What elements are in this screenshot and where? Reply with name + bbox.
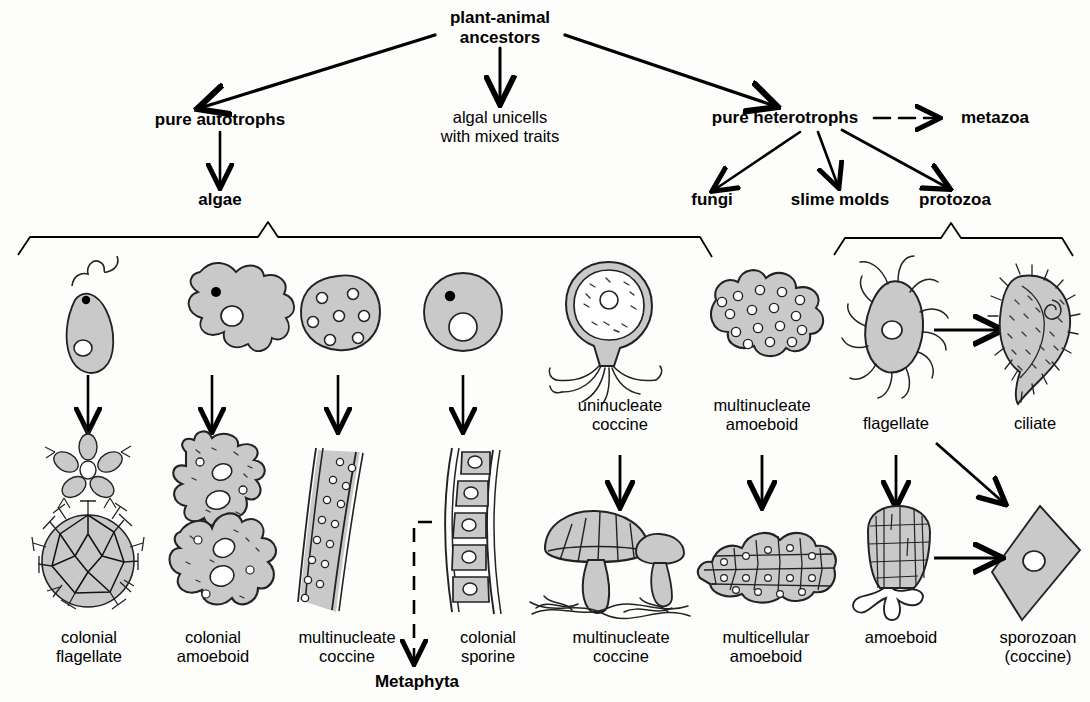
- caption-fungi-multinucleate-coccine: multinucleate coccine: [549, 628, 693, 666]
- diagram-canvas: plant-animal ancestors pure autotrophs a…: [0, 0, 1090, 702]
- organism-flagellate-protozoan: [842, 256, 948, 398]
- caption-multinucleate-amoeboid: multinucleate amoeboid: [687, 396, 837, 434]
- caption-colonial-amoeboid: colonial amoeboid: [152, 628, 274, 666]
- caption-line2: amoeboid: [687, 415, 837, 434]
- caption-ciliate: ciliate: [985, 414, 1085, 433]
- organism-mushroom: [530, 511, 690, 619]
- node-protozoa: protozoa: [900, 190, 1010, 210]
- organism-multicellular-amoeboid: [698, 533, 836, 603]
- caption-colonial-flagellate: colonial flagellate: [28, 628, 150, 666]
- node-root-line1: plant-animal: [415, 8, 585, 28]
- node-algae: algae: [180, 190, 260, 210]
- caption-sporozoan: sporozoan (coccine): [975, 628, 1090, 666]
- node-algal-unicells: algal unicells with mixed traits: [410, 108, 590, 146]
- node-pure-autotrophs: pure autotrophs: [130, 110, 310, 130]
- node-root: plant-animal ancestors: [415, 8, 585, 47]
- node-metaphyta: Metaphyta: [352, 672, 482, 692]
- organism-coccine-unicell: [301, 275, 380, 350]
- organism-multinucleate-amoeboid: [711, 270, 823, 356]
- node-slime-molds: slime molds: [770, 190, 910, 210]
- arrow-root-to-autotrophs: [200, 35, 435, 108]
- caption-uninucleate-coccine: uninucleate coccine: [545, 396, 695, 434]
- algae-bracket: [18, 222, 712, 257]
- caption-line1: multicellular: [696, 628, 836, 647]
- protozoa-bracket: [834, 223, 1073, 256]
- caption-line2: flagellate: [28, 647, 150, 666]
- caption-line2: amoeboid: [152, 647, 274, 666]
- arrow-heterotrophs-to-protozoa: [842, 130, 948, 188]
- organism-colonial-flagellate-sphere: [32, 500, 144, 609]
- caption-line1: multinucleate: [549, 628, 693, 647]
- organism-sporozoan: [992, 506, 1080, 620]
- caption-line2: (coccine): [975, 647, 1090, 666]
- organism-amoeboid-unicell: [189, 263, 294, 351]
- node-algal-unicells-line1: algal unicells: [410, 108, 590, 127]
- arrow-root-to-heterotrophs: [565, 35, 775, 106]
- organism-ciliate: [988, 264, 1080, 404]
- node-metazoa: metazoa: [940, 108, 1050, 128]
- arrow-heterotrophs-to-fungi: [714, 132, 800, 190]
- caption-line2: sporine: [427, 647, 549, 666]
- caption-line1: uninucleate: [545, 396, 695, 415]
- caption-line2: coccine: [275, 647, 419, 666]
- caption-flagellate: flagellate: [836, 414, 956, 433]
- caption-line2: coccine: [545, 415, 695, 434]
- caption-line1: colonial: [28, 628, 150, 647]
- caption-multicellular-amoeboid: multicellular amoeboid: [696, 628, 836, 666]
- caption-line1: multinucleate: [687, 396, 837, 415]
- diagram-svg: [0, 0, 1090, 702]
- caption-line1: multinucleate: [275, 628, 419, 647]
- caption-protozoa-amoeboid: amoeboid: [841, 628, 961, 647]
- arrow-heterotrophs-to-slime-molds: [818, 132, 838, 186]
- organism-multinucleate-coccine-filament: [298, 448, 363, 612]
- organism-colonial-amoeboid: [173, 431, 264, 525]
- arrow-flagellate-to-sporozoan: [936, 443, 1004, 503]
- caption-line1: sporozoan: [975, 628, 1090, 647]
- organism-uninucleate-coccine-fungus: [549, 262, 661, 404]
- organism-colonial-flagellate: [45, 424, 131, 508]
- caption-colonial-sporine: colonial sporine: [427, 628, 549, 666]
- node-root-line2: ancestors: [415, 28, 585, 48]
- node-fungi: fungi: [672, 190, 752, 210]
- caption-multinucleate-coccine: multinucleate coccine: [275, 628, 419, 666]
- caption-line2: amoeboid: [696, 647, 836, 666]
- node-pure-heterotrophs: pure heterotrophs: [690, 108, 880, 128]
- caption-line2: coccine: [549, 647, 693, 666]
- organism-sporine-unicell: [424, 273, 502, 351]
- organism-amoeboid-protozoan: [853, 506, 930, 620]
- organism-colonial-sporine-filament: [445, 448, 501, 614]
- organism-flagellate-unicell: [67, 256, 118, 373]
- caption-line1: colonial: [152, 628, 274, 647]
- organism-colonial-amoeboid-large: [170, 513, 276, 604]
- node-algal-unicells-line2: with mixed traits: [410, 127, 590, 146]
- caption-line1: colonial: [427, 628, 549, 647]
